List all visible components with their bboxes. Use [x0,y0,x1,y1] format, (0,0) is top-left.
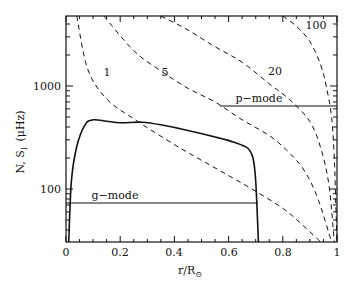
curves [69,16,337,242]
lamb-frequency-curve-5 [104,16,332,242]
axis-ticks [66,16,337,242]
g-mode-label: g−mode [92,189,139,202]
y-tick-100: 100 [40,183,61,196]
curve-label-20: 20 [268,65,282,78]
y-tick-1000: 1000 [33,80,61,93]
x-tick-0.2: 0.2 [111,246,129,259]
p-mode-label: p−mode [236,92,283,105]
lamb-frequency-curve-20 [161,16,334,242]
plot-frame [66,16,337,242]
y-axis-title: N, Sl(μHz) [14,110,29,173]
lamb-frequency-curve-1 [77,16,321,242]
chart: 0 0.2 0.4 0.6 0.8 1 100 1000 r/R⊙ N, Sl(… [0,0,355,282]
curve-label-5: 5 [162,66,169,79]
lamb-frequency-curve-100 [283,16,337,242]
x-axis-title: r/R⊙ [178,264,202,279]
x-tick-0.8: 0.8 [274,246,292,259]
x-tick-0.6: 0.6 [220,246,238,259]
buoyancy-frequency-curve [69,120,259,242]
curve-label-100: 100 [306,19,327,32]
x-tick-0.4: 0.4 [165,246,183,259]
x-tick-1: 1 [334,246,341,259]
x-tick-0: 0 [63,246,70,259]
curve-label-1: 1 [104,66,111,79]
